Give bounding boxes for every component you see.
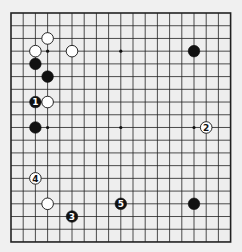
move-number: 3 [69, 212, 75, 222]
star-point [46, 50, 49, 53]
move-number: 4 [32, 174, 38, 184]
white-stone [42, 33, 54, 45]
black-stone [30, 58, 42, 70]
black-stone [188, 198, 200, 210]
move-number: 1 [32, 97, 38, 107]
star-point [46, 126, 49, 129]
black-stone: 3 [66, 211, 78, 223]
white-stone [42, 96, 54, 108]
white-stone: 2 [200, 122, 212, 134]
black-stone: 1 [30, 96, 42, 108]
white-stone: 4 [30, 173, 42, 185]
go-board: 12435 [0, 0, 242, 252]
star-point [192, 126, 195, 129]
white-stone [42, 198, 54, 210]
move-number: 5 [118, 199, 124, 209]
star-point [119, 50, 122, 53]
white-stone [30, 45, 42, 57]
black-stone: 5 [115, 198, 127, 210]
star-point [119, 126, 122, 129]
black-stone [188, 45, 200, 57]
black-stone [30, 122, 42, 134]
white-stone [66, 45, 78, 57]
move-number: 2 [203, 123, 209, 133]
black-stone [42, 71, 54, 83]
